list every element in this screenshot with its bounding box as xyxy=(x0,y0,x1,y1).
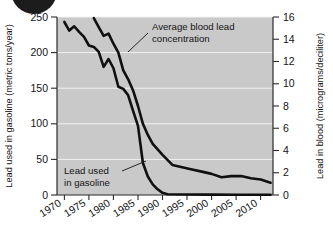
x-tick-1985: 1985 xyxy=(110,196,136,219)
x-tick-2005: 2005 xyxy=(209,196,235,219)
left-tick-100: 100 xyxy=(30,117,48,129)
annotation-blood-lead-line1: Average blood lead xyxy=(152,21,235,32)
left-axis xyxy=(51,17,57,195)
right-tick-6: 6 xyxy=(283,122,289,134)
right-tick-10: 10 xyxy=(283,77,295,89)
bottom-axis-tick-labels: 1970 1975 1980 1985 1990 1995 2000 2005 … xyxy=(37,196,260,219)
right-tick-12: 12 xyxy=(283,55,295,67)
x-tick-1990: 1990 xyxy=(135,196,161,219)
x-tick-1980: 1980 xyxy=(86,196,112,219)
annotation-lead-gasoline-line2: in gasoline xyxy=(64,177,110,188)
left-tick-250: 250 xyxy=(30,11,48,23)
right-tick-8: 8 xyxy=(283,100,289,112)
lead-chart-figure: 250 200 150 100 50 0 Lead used in gasoli… xyxy=(0,0,333,247)
right-axis xyxy=(273,17,279,195)
left-tick-150: 150 xyxy=(30,82,48,94)
x-tick-2010: 2010 xyxy=(233,196,259,219)
x-tick-1995: 1995 xyxy=(159,196,185,219)
x-tick-2000: 2000 xyxy=(184,196,210,219)
right-tick-14: 14 xyxy=(283,33,295,45)
right-axis-tick-labels: 16 14 12 10 8 6 4 2 0 xyxy=(283,11,295,201)
right-axis-title: Lead in blood (micrograms/deciliter) xyxy=(315,33,325,179)
x-tick-1975: 1975 xyxy=(61,196,87,219)
left-axis-title: Lead used in gasoline (metric tons/year) xyxy=(4,24,14,187)
annotation-blood-lead-line2: concentration xyxy=(152,33,210,44)
right-tick-4: 4 xyxy=(283,144,289,156)
left-tick-50: 50 xyxy=(36,153,48,165)
annotation-lead-gasoline-line1: Lead used xyxy=(64,165,109,176)
right-tick-2: 2 xyxy=(283,166,289,178)
x-tick-1970: 1970 xyxy=(37,196,63,219)
right-tick-16: 16 xyxy=(283,11,295,23)
chart-canvas: 250 200 150 100 50 0 Lead used in gasoli… xyxy=(0,0,333,247)
left-axis-tick-labels: 250 200 150 100 50 0 xyxy=(30,11,48,201)
left-tick-0: 0 xyxy=(42,189,48,201)
right-tick-0: 0 xyxy=(283,189,289,201)
left-tick-200: 200 xyxy=(30,46,48,58)
